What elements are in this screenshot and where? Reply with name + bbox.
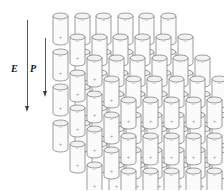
svg-text:+: + <box>114 183 118 189</box>
dipole-cylinder: −+ <box>185 132 202 166</box>
dipole-lattice-figure: EP −+−+−+−+−+−+−+−+−+−+−+−+−+−+−+−+−+−+−… <box>0 0 224 190</box>
dipole-cylinder: −+ <box>206 167 223 190</box>
svg-text:−: − <box>76 74 79 80</box>
svg-text:−: − <box>119 38 122 44</box>
svg-text:−: − <box>110 116 113 122</box>
dipole-cylinder: −+ <box>185 96 202 130</box>
dipole-cylinder: −+ <box>69 140 86 174</box>
svg-text:−: − <box>76 38 79 44</box>
svg-text:−: − <box>59 53 62 59</box>
svg-text:−: − <box>192 172 195 178</box>
svg-text:+: + <box>148 189 152 190</box>
svg-text:−: − <box>175 80 178 86</box>
svg-text:+: + <box>110 133 114 139</box>
svg-text:−: − <box>76 109 79 115</box>
svg-text:−: − <box>141 38 144 44</box>
dipole-cylinder: −+ <box>52 83 69 117</box>
svg-text:−: − <box>218 80 221 86</box>
svg-text:+: + <box>213 118 217 124</box>
svg-text:−: − <box>93 59 96 65</box>
svg-text:−: − <box>213 101 216 107</box>
dipole-cylinder: −+ <box>142 167 159 190</box>
svg-text:+: + <box>170 189 174 190</box>
svg-text:−: − <box>149 172 152 178</box>
dipole-cylinder: −+ <box>206 96 223 130</box>
svg-text:−: − <box>145 17 148 23</box>
svg-text:−: − <box>59 88 62 94</box>
dipole-cylinder: −+ <box>52 48 69 82</box>
svg-text:+: + <box>110 97 114 103</box>
dipole-cylinder: −+ <box>86 90 103 124</box>
svg-text:−: − <box>124 17 127 23</box>
svg-text:−: − <box>192 101 195 107</box>
svg-text:+: + <box>76 55 80 61</box>
svg-text:+: + <box>191 189 195 190</box>
svg-text:+: + <box>76 162 80 168</box>
svg-text:+: + <box>59 34 63 40</box>
svg-text:−: − <box>170 101 173 107</box>
svg-text:−: − <box>136 59 139 65</box>
dipole-cylinder: −+ <box>142 132 159 166</box>
svg-text:−: − <box>201 59 204 65</box>
dipole-cylinder: −+ <box>86 54 103 88</box>
svg-text:−: − <box>110 80 113 86</box>
svg-text:−: − <box>149 101 152 107</box>
svg-text:−: − <box>158 59 161 65</box>
svg-text:+: + <box>93 112 97 118</box>
svg-text:−: − <box>127 137 130 143</box>
dipole-cylinder: −+ <box>52 119 69 153</box>
svg-text:+: + <box>170 118 174 124</box>
svg-text:+: + <box>59 141 63 147</box>
dipole-cylinder: −+ <box>163 132 180 166</box>
svg-text:−: − <box>192 137 195 143</box>
svg-text:−: − <box>184 38 187 44</box>
svg-text:−: − <box>59 124 62 130</box>
svg-text:+: + <box>93 147 97 153</box>
dipole-cylinder: −+ <box>142 96 159 130</box>
dipole-cylinder: −+ <box>86 125 103 159</box>
svg-text:+: + <box>110 168 114 174</box>
svg-text:−: − <box>110 151 113 157</box>
dipole-cylinder: −+ <box>69 33 86 67</box>
svg-text:−: − <box>213 137 216 143</box>
svg-text:−: − <box>196 80 199 86</box>
dipole-cylinder: −+ <box>103 111 120 145</box>
svg-text:−: − <box>167 17 170 23</box>
svg-text:−: − <box>170 172 173 178</box>
dipole-cylinder: −+ <box>86 161 103 191</box>
svg-text:+: + <box>76 126 80 132</box>
svg-text:−: − <box>213 172 216 178</box>
dipole-cylinder: −+ <box>120 167 137 190</box>
svg-text:+: + <box>127 118 131 124</box>
svg-text:−: − <box>127 172 130 178</box>
svg-text:−: − <box>93 166 96 172</box>
dipole-cylinder: −+ <box>52 12 69 46</box>
svg-text:−: − <box>132 80 135 86</box>
svg-text:+: + <box>59 105 63 111</box>
dipole-cylinder: −+ <box>103 146 120 180</box>
svg-text:+: + <box>76 91 80 97</box>
dipole-cylinder: −+ <box>206 132 223 166</box>
dipole-lattice: −+−+−+−+−+−+−+−+−+−+−+−+−+−+−+−+−+−+−+−+… <box>0 0 224 190</box>
svg-text:−: − <box>93 95 96 101</box>
svg-text:+: + <box>191 154 195 160</box>
dipole-cylinder: −+ <box>103 75 120 109</box>
svg-text:+: + <box>127 154 131 160</box>
svg-text:+: + <box>93 76 97 82</box>
svg-text:+: + <box>127 189 131 190</box>
dipole-cylinder: −+ <box>120 96 137 130</box>
dipole-cylinder: −+ <box>163 96 180 130</box>
svg-text:−: − <box>93 130 96 136</box>
svg-text:−: − <box>59 17 62 23</box>
svg-text:−: − <box>102 17 105 23</box>
dipole-cylinder: −+ <box>120 132 137 166</box>
svg-text:−: − <box>76 145 79 151</box>
svg-text:+: + <box>170 154 174 160</box>
dipole-cylinder: −+ <box>69 104 86 138</box>
svg-text:+: + <box>148 118 152 124</box>
svg-text:−: − <box>149 137 152 143</box>
svg-text:−: − <box>98 38 101 44</box>
svg-text:−: − <box>153 80 156 86</box>
svg-text:−: − <box>162 38 165 44</box>
svg-text:+: + <box>59 70 63 76</box>
